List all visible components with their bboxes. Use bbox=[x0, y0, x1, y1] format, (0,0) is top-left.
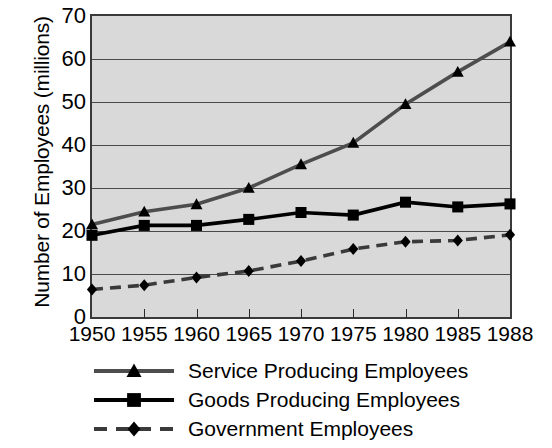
data-point bbox=[87, 283, 97, 295]
data-point bbox=[296, 255, 306, 267]
chart-root: Number of Employees (millions) 010203040… bbox=[0, 0, 552, 448]
series-square bbox=[86, 197, 515, 241]
legend-key-diamond bbox=[92, 417, 176, 441]
legend-marker bbox=[127, 393, 141, 407]
y-tick-label: 60 bbox=[40, 48, 86, 70]
legend-item: Service Producing Employees bbox=[92, 356, 512, 385]
y-tick-label: 40 bbox=[40, 134, 86, 156]
chart-legend: Service Producing EmployeesGoods Produci… bbox=[92, 356, 512, 443]
legend-key-triangle bbox=[92, 359, 176, 383]
x-tick-label: 1950 bbox=[69, 323, 116, 344]
series-diamond bbox=[87, 229, 515, 296]
data-point bbox=[504, 198, 515, 209]
data-point bbox=[348, 243, 358, 255]
series-lines bbox=[92, 16, 510, 317]
series-triangle bbox=[86, 36, 516, 230]
data-point bbox=[139, 220, 150, 231]
data-point bbox=[505, 229, 515, 241]
data-point bbox=[295, 207, 306, 218]
x-tick-label: 1960 bbox=[173, 323, 220, 344]
plot-inner: 010203040506070 bbox=[92, 16, 510, 317]
plot-area: 010203040506070 bbox=[90, 14, 512, 319]
x-tick-label: 1955 bbox=[121, 323, 168, 344]
series-line bbox=[92, 42, 510, 225]
y-tick-label: 50 bbox=[40, 91, 86, 113]
x-tick-label: 1965 bbox=[225, 323, 272, 344]
data-point bbox=[244, 265, 254, 277]
y-tick-label: 20 bbox=[40, 220, 86, 242]
legend-label: Service Producing Employees bbox=[188, 360, 468, 381]
y-tick-label: 10 bbox=[40, 263, 86, 285]
data-point bbox=[191, 220, 202, 231]
data-point bbox=[504, 36, 516, 47]
legend-label: Government Employees bbox=[188, 418, 413, 439]
legend-item: Goods Producing Employees bbox=[92, 385, 512, 414]
x-tick-label: 1980 bbox=[382, 323, 429, 344]
data-point bbox=[243, 214, 254, 225]
x-tick-label: 1975 bbox=[330, 323, 377, 344]
x-tick-label: 1988 bbox=[487, 323, 534, 344]
data-point bbox=[191, 271, 201, 283]
y-tick-label: 70 bbox=[40, 5, 86, 27]
data-point bbox=[453, 234, 463, 246]
data-point bbox=[400, 197, 411, 208]
data-point bbox=[86, 230, 97, 241]
data-point bbox=[348, 210, 359, 221]
data-point bbox=[452, 201, 463, 212]
x-tick-label: 1970 bbox=[278, 323, 325, 344]
data-point bbox=[139, 279, 149, 291]
legend-marker bbox=[128, 421, 141, 436]
x-tick-label: 1985 bbox=[434, 323, 481, 344]
legend-label: Goods Producing Employees bbox=[188, 389, 460, 410]
y-tick-label: 30 bbox=[40, 177, 86, 199]
data-point bbox=[400, 236, 410, 248]
legend-key-square bbox=[92, 388, 176, 412]
legend-item: Government Employees bbox=[92, 414, 512, 443]
